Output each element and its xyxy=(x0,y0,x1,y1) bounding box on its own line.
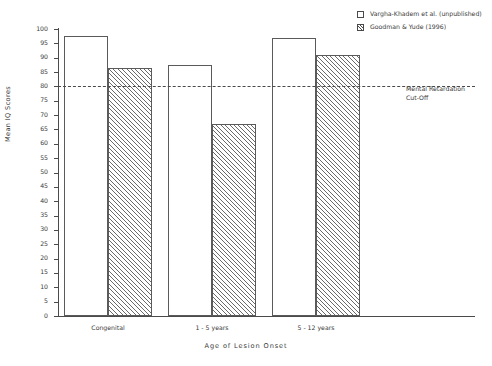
y-axis-tick: 25 xyxy=(54,244,58,245)
x-axis-category-label: 1 - 5 years xyxy=(162,324,262,331)
y-axis-tick-label: 75 xyxy=(40,96,48,103)
y-axis-tick: 95 xyxy=(54,43,58,44)
y-axis-tick-label: 5 xyxy=(44,297,48,304)
x-axis-title: Age of Lesion Onset xyxy=(0,342,492,350)
y-axis-tick-label: 50 xyxy=(40,168,48,175)
y-axis-tick-label: 65 xyxy=(40,125,48,132)
chart-legend: Vargha-Khadem et al. (unpublished) Goodm… xyxy=(357,9,492,35)
y-axis-tick-label: 55 xyxy=(40,154,48,161)
y-axis-title: Mean IQ Scores xyxy=(4,52,12,142)
open-square-icon xyxy=(357,11,364,18)
legend-label: Vargha-Khadem et al. (unpublished) xyxy=(370,9,482,18)
bar-open xyxy=(168,65,212,316)
bar-open xyxy=(272,38,316,316)
cutoff-annotation: Mental Retardation Cut-Off xyxy=(406,85,465,102)
y-axis-tick: 15 xyxy=(54,273,58,274)
legend-item-vargha-khadem: Vargha-Khadem et al. (unpublished) xyxy=(357,9,492,21)
y-axis-tick: 5 xyxy=(54,302,58,303)
y-axis-tick-label: 0 xyxy=(44,312,48,319)
cutoff-annotation-line-2: Cut-Off xyxy=(406,94,465,103)
bar-hatched xyxy=(212,124,256,316)
y-axis-tick-label: 40 xyxy=(40,197,48,204)
y-axis-tick: 75 xyxy=(54,101,58,102)
y-axis-tick-label: 20 xyxy=(40,254,48,261)
y-axis-tick: 0 xyxy=(54,316,58,317)
y-axis-line xyxy=(58,28,59,317)
x-axis-category-label: Congenital xyxy=(58,324,158,331)
cutoff-annotation-line-1: Mental Retardation xyxy=(406,85,465,94)
y-axis-tick-label: 35 xyxy=(40,211,48,218)
x-axis-line xyxy=(58,316,475,317)
legend-label: Goodman & Yude (1996) xyxy=(370,22,446,31)
y-axis-tick-label: 45 xyxy=(40,182,48,189)
y-axis-tick-label: 80 xyxy=(40,82,48,89)
y-axis-tick-label: 25 xyxy=(40,240,48,247)
y-axis-tick-label: 85 xyxy=(40,68,48,75)
bar-hatched xyxy=(108,68,152,316)
y-axis-tick: 10 xyxy=(54,287,58,288)
bar-open xyxy=(64,36,108,316)
y-axis-tick: 45 xyxy=(54,187,58,188)
bar-hatched xyxy=(316,55,360,316)
y-axis-tick: 35 xyxy=(54,216,58,217)
y-axis-tick: 60 xyxy=(54,144,58,145)
y-axis-tick-label: 100 xyxy=(36,25,48,32)
y-axis-tick: 65 xyxy=(54,129,58,130)
legend-item-goodman-yude: Goodman & Yude (1996) xyxy=(357,22,492,34)
y-axis-tick: 55 xyxy=(54,158,58,159)
y-axis-tick-label: 70 xyxy=(40,111,48,118)
y-axis-tick-label: 60 xyxy=(40,139,48,146)
x-axis-category-label: 5 - 12 years xyxy=(266,324,366,331)
y-axis-tick-label: 90 xyxy=(40,53,48,60)
y-axis-tick-label: 10 xyxy=(40,283,48,290)
y-axis-tick: 30 xyxy=(54,230,58,231)
y-axis-tick: 85 xyxy=(54,72,58,73)
y-axis-tick-label: 15 xyxy=(40,268,48,275)
y-axis-tick: 40 xyxy=(54,201,58,202)
y-axis-tick: 50 xyxy=(54,173,58,174)
y-axis-tick: 20 xyxy=(54,259,58,260)
plot-area: 1009590858075706560555045403530252015105… xyxy=(58,29,370,316)
y-axis-tick: 100 xyxy=(54,29,58,30)
y-axis-tick-label: 30 xyxy=(40,225,48,232)
chart-figure: Vargha-Khadem et al. (unpublished) Goodm… xyxy=(0,0,492,366)
y-axis-tick-label: 95 xyxy=(40,39,48,46)
y-axis-tick: 90 xyxy=(54,58,58,59)
y-axis-tick: 70 xyxy=(54,115,58,116)
